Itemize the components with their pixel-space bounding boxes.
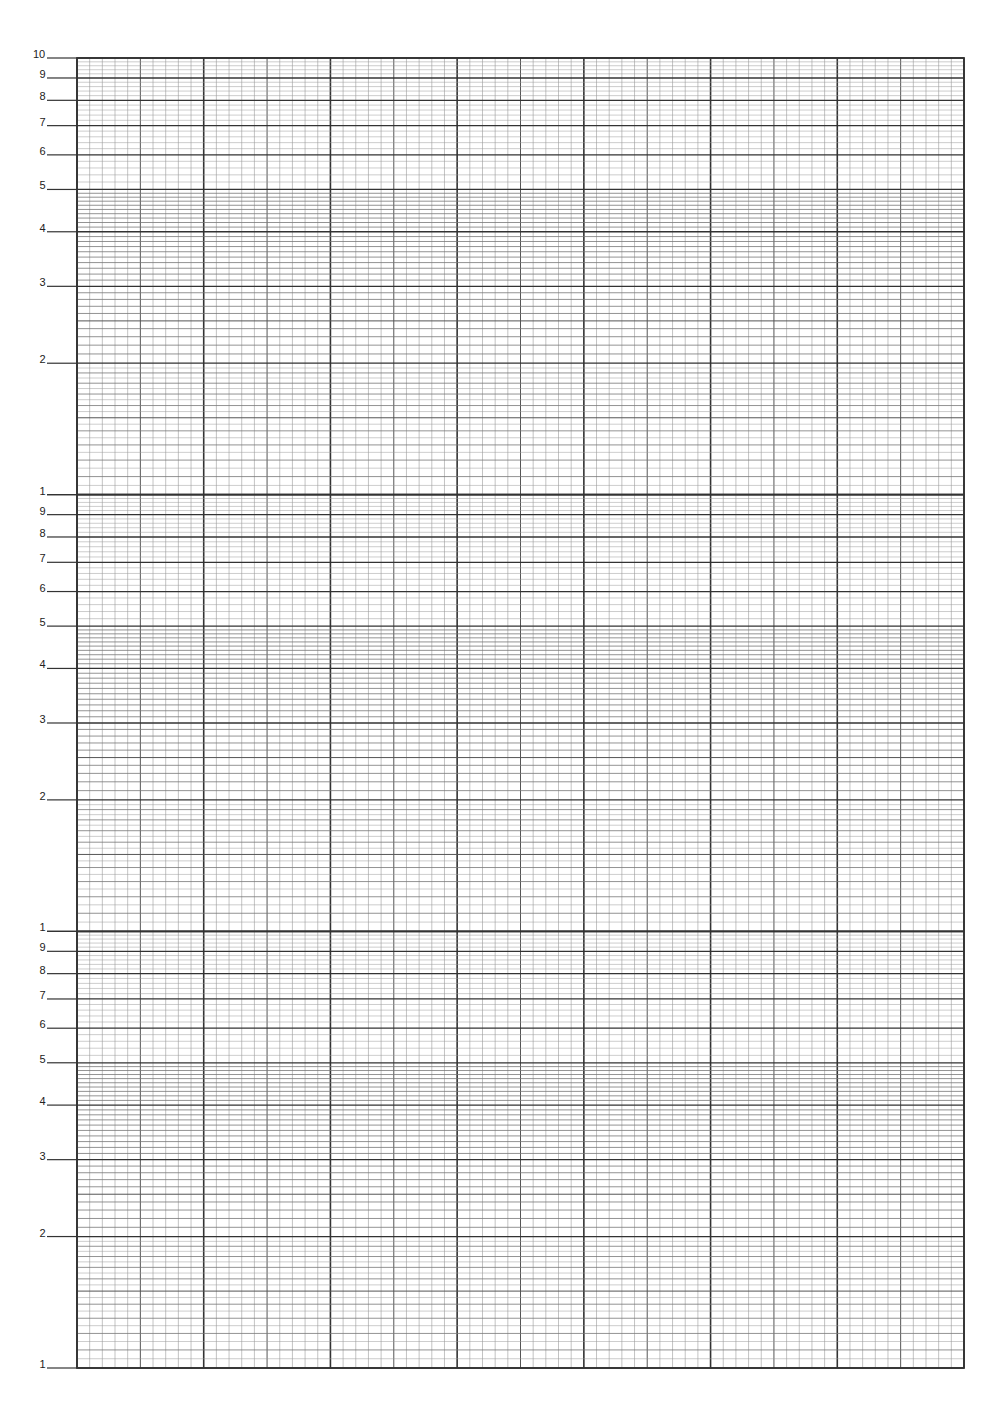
y-tick-label: 8 — [40, 91, 46, 102]
y-tick-label: 6 — [40, 583, 46, 594]
semilog-graph-paper: 10987654321987654321987654321 — [0, 0, 1007, 1416]
y-tick-label: 1 — [40, 1359, 46, 1370]
y-tick-label: 8 — [40, 528, 46, 539]
y-tick-label: 4 — [40, 223, 46, 234]
y-tick-label: 2 — [40, 1228, 46, 1239]
y-tick-label: 3 — [40, 277, 46, 288]
y-tick-label: 4 — [40, 1096, 46, 1107]
y-tick-label: 7 — [40, 990, 46, 1001]
y-tick-label: 5 — [40, 617, 46, 628]
y-tick-label: 3 — [40, 1151, 46, 1162]
y-tick-label: 4 — [40, 659, 46, 670]
y-tick-label: 1 — [40, 486, 46, 497]
y-tick-label: 8 — [40, 965, 46, 976]
y-tick-label: 2 — [40, 354, 46, 365]
y-tick-label: 5 — [40, 180, 46, 191]
y-tick-label: 6 — [40, 146, 46, 157]
y-tick-label: 6 — [40, 1019, 46, 1030]
y-tick-label: 10 — [33, 49, 45, 60]
y-tick-label: 9 — [40, 69, 46, 80]
y-tick-label: 9 — [40, 506, 46, 517]
y-tick-label: 9 — [40, 942, 46, 953]
y-tick-label: 2 — [40, 791, 46, 802]
y-tick-label: 7 — [40, 117, 46, 128]
y-tick-label: 3 — [40, 714, 46, 725]
y-tick-label: 1 — [40, 922, 46, 933]
y-tick-label: 5 — [40, 1054, 46, 1065]
log-grid — [0, 0, 1007, 1416]
y-tick-label: 7 — [40, 553, 46, 564]
